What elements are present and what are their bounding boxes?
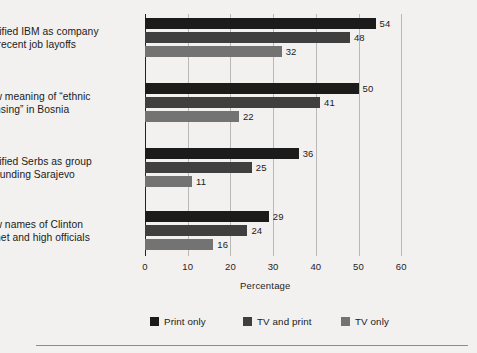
bar-value-0-1: 48 [354,32,365,43]
chart-legend: Print onlyTV and printTV only [0,316,477,334]
x-tick-0: 0 [130,261,160,272]
bar-2-0 [145,148,299,159]
bar-value-3-1: 24 [251,225,262,236]
legend-item-2[interactable]: TV only [341,316,389,327]
x-axis-title: Percentage [240,280,291,291]
bar-value-0-0: 54 [380,18,391,29]
legend-swatch-icon [341,317,350,326]
category-label-line1: Know meaning of “ethnic [0,90,136,103]
legend-swatch-icon [243,317,252,326]
category-label-1: Know meaning of “ethniccleansing” in Bos… [0,90,136,116]
bar-1-0 [145,83,359,94]
gridline-40 [316,14,317,256]
x-tick-50: 50 [344,261,374,272]
category-label-0: Identified IBM as companywith recent job… [0,25,136,51]
category-label-line2: with recent job layoffs [0,38,136,51]
plot-area: 0102030405060 Identified IBM as companyw… [0,0,477,285]
bar-3-1 [145,225,247,236]
bar-1-1 [145,97,320,108]
x-tick-20: 20 [215,261,245,272]
category-label-3: Know names of Clintoncabinet and high of… [0,218,136,244]
bar-3-2 [145,239,213,250]
legend-item-1[interactable]: TV and print [243,316,312,327]
category-label-line1: Identified Serbs as group [0,155,136,168]
figure-bottom-rule [36,345,468,346]
bar-value-2-1: 25 [256,162,267,173]
bar-2-2 [145,176,192,187]
bar-value-3-0: 29 [273,211,284,222]
category-label-line1: Identified IBM as company [0,25,136,38]
bar-1-2 [145,111,239,122]
gridline-50 [359,14,360,256]
bar-value-3-2: 16 [217,239,228,250]
legend-label: TV only [355,316,389,327]
bar-0-2 [145,46,282,57]
category-label-2: Identified Serbs as groupsurrounding Sar… [0,155,136,181]
x-tick-40: 40 [301,261,331,272]
bar-value-1-1: 41 [324,97,335,108]
category-label-line1: Know names of Clinton [0,218,136,231]
chart-figure: 0102030405060 Identified IBM as companyw… [0,0,477,353]
gridline-60 [401,14,402,256]
bar-3-0 [145,211,269,222]
category-label-line2: cabinet and high officials [0,231,136,244]
legend-label: TV and print [257,316,312,327]
bar-0-0 [145,18,376,29]
x-tick-60: 60 [386,261,416,272]
bar-value-2-2: 11 [196,176,206,187]
bar-value-1-0: 50 [363,83,374,94]
legend-item-0[interactable]: Print only [150,316,206,327]
legend-label: Print only [164,316,206,327]
bar-value-1-2: 22 [243,111,254,122]
category-label-line2: cleansing” in Bosnia [0,103,136,116]
bar-0-1 [145,32,350,43]
category-label-line2: surrounding Sarajevo [0,168,136,181]
bar-value-0-2: 32 [286,46,297,57]
bar-value-2-0: 36 [303,148,314,159]
x-tick-30: 30 [258,261,288,272]
legend-swatch-icon [150,317,159,326]
bar-2-1 [145,162,252,173]
x-tick-10: 10 [173,261,203,272]
